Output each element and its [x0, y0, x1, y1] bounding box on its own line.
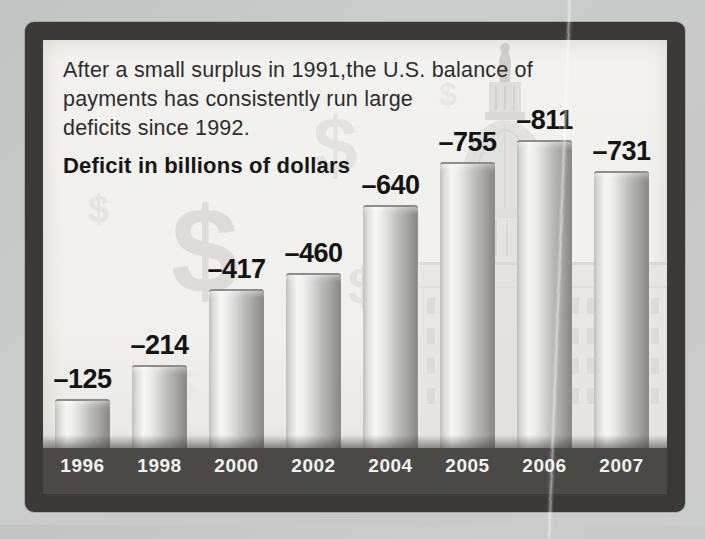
bar-2007 [594, 171, 649, 448]
bar-value-label-2004: –640 [361, 170, 419, 201]
x-axis-label-2006: 2006 [522, 455, 566, 477]
x-axis-label-2005: 2005 [445, 455, 489, 477]
bar-2006 [517, 140, 572, 448]
bar-value-label-1996: –125 [53, 364, 111, 395]
x-axis-label-2002: 2002 [291, 455, 335, 477]
bar-value-label-1998: –214 [130, 330, 188, 361]
bar-value-label-2002: –460 [284, 238, 342, 269]
intro-text: After a small surplus in 1991,the U.S. b… [63, 56, 533, 143]
x-axis-label-1998: 1998 [137, 455, 181, 477]
x-axis-label-2007: 2007 [599, 455, 643, 477]
intro-line-1: After a small surplus in 1991,the U.S. b… [63, 56, 533, 85]
bar-value-label-2000: –417 [207, 254, 265, 285]
bar-2005 [440, 162, 495, 448]
x-axis-label-1996: 1996 [60, 455, 104, 477]
x-axis-strip: 19961998200020022004200520062007 [43, 448, 667, 494]
bar-2004 [363, 205, 418, 448]
bar-2002 [286, 273, 341, 448]
bar-value-label-2007: –731 [592, 136, 650, 167]
plot-area: $ $ $ $ $ $ After a small surplus in 199… [43, 40, 667, 448]
chart-frame: $ $ $ $ $ $ After a small surplus in 199… [25, 22, 685, 512]
intro-line-2: payments has consistently run large [63, 85, 533, 114]
x-axis-label-2000: 2000 [214, 455, 258, 477]
intro-line-3: deficits since 1992. [63, 114, 533, 143]
bar-2000 [209, 289, 264, 448]
x-axis-label-2004: 2004 [368, 455, 412, 477]
baseline-shadow [43, 435, 667, 448]
chart-subtitle: Deficit in billions of dollars [63, 153, 350, 179]
